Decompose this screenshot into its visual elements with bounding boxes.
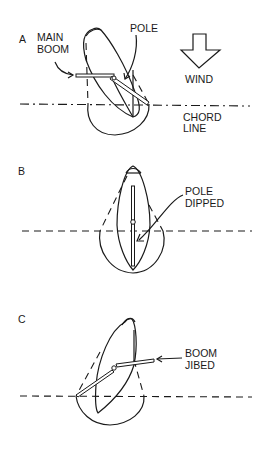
panel-c: C BOOM JIBED <box>18 313 252 425</box>
spinnaker-pole <box>110 76 149 105</box>
pole-label: POLE <box>130 22 158 34</box>
hull-outline <box>84 28 140 117</box>
wind-label: WIND <box>185 73 213 85</box>
chord-line <box>20 104 250 106</box>
boom-jibed-leader-arrow <box>157 358 182 359</box>
pole-dipped-label-line1: POLE <box>185 185 213 197</box>
panel-b: B POLE DIPPED <box>18 165 252 273</box>
chord-line-c <box>20 396 252 397</box>
main-boom-label-line2: BOOM <box>37 43 69 55</box>
mast <box>112 76 116 80</box>
boom-jibed-label-line2: JIBED <box>185 359 215 371</box>
main-boom-label-line1: MAIN <box>37 31 63 43</box>
main-boom <box>76 74 114 77</box>
panel-c-letter: C <box>18 313 26 325</box>
mast-b <box>131 220 136 225</box>
spinnaker-pole-b <box>132 186 135 266</box>
chord-line-label-line2: LINE <box>183 122 206 134</box>
panel-a: A MAIN BOOM POLE WIND CHORD LINE <box>19 22 250 135</box>
pole-dipped-leader-arrow <box>139 195 183 240</box>
spinnaker-pole-c <box>76 370 114 397</box>
spinnaker-jibe-diagram: A MAIN BOOM POLE WIND CHORD LINE <box>0 0 271 453</box>
spinnaker-belly-c <box>76 396 144 425</box>
pole-dipped-label-line2: DIPPED <box>185 197 225 209</box>
panel-b-letter: B <box>18 165 25 177</box>
hull-outline-c <box>96 319 137 413</box>
hull-bow <box>86 29 101 36</box>
panel-a-letter: A <box>19 33 26 45</box>
wind-arrow-icon <box>181 34 220 68</box>
boom-jibed-label-line1: BOOM <box>185 347 217 359</box>
spinnaker-leech-right-c <box>134 360 144 396</box>
pole-dipped-leader-arrowhead <box>137 234 144 241</box>
mast-c <box>112 366 116 370</box>
